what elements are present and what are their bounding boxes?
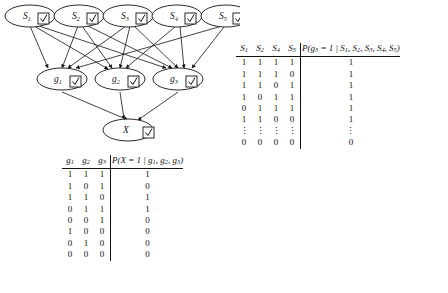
node-g1[interactable]: g1 [37, 68, 87, 90]
cell-bit: 1 [284, 80, 301, 91]
cell-bit: 0 [62, 215, 78, 226]
table-row: 1 0 0 0 [62, 226, 183, 237]
cell-bit: 1 [268, 69, 284, 80]
cell-bit: 0 [268, 137, 284, 148]
cell-bit: 1 [268, 92, 284, 103]
table-row: 1 1 0 0 1 [236, 114, 400, 125]
cpt-table-X-body: 1 1 1 1 1 0 1 0 1 1 0 [62, 169, 183, 261]
cell-bit: ⋮ [284, 126, 301, 137]
bayesian-network-graph: S1 S2 S3 S4 [0, 0, 240, 150]
checkbox-S2[interactable] [87, 13, 98, 24]
cell-probability: 1 [302, 92, 400, 103]
checkbox-S3[interactable] [136, 13, 147, 24]
cell-bit: 0 [62, 249, 78, 260]
cell-probability: 1 [112, 204, 183, 215]
cell-bit: 1 [62, 226, 78, 237]
checkbox-S4[interactable] [185, 13, 196, 24]
cell-probability: 1 [302, 57, 400, 69]
cpt-table-g3-body: 1 1 1 1 1 1 1 1 0 1 1 1 [236, 57, 400, 149]
cell-bit: 1 [252, 80, 268, 91]
cell-bit: 0 [284, 69, 301, 80]
table-row: 0 0 0 0 [62, 249, 183, 260]
checkbox-g3[interactable] [186, 76, 197, 87]
table-row: 0 1 0 0 [62, 238, 183, 249]
cpt-table-g3-grid: S1 S2 S4 S5 P(g3 = 1 | S1, S2, S3, S4, S… [236, 43, 400, 149]
cell-probability: ⋮ [302, 126, 400, 137]
cell-bit: 0 [78, 226, 94, 237]
node-g3[interactable]: g3 [153, 68, 203, 90]
cell-probability: 1 [302, 114, 400, 125]
node-S3[interactable]: S3 [103, 5, 153, 27]
checkbox-X[interactable] [143, 127, 154, 138]
checkbox-S5[interactable] [233, 13, 240, 24]
table-row: 1 1 0 1 1 [236, 80, 400, 91]
table-row: 1 0 1 1 1 [236, 92, 400, 103]
table-header-row: S1 S2 S4 S5 P(g3 = 1 | S1, S2, S3, S4, S… [236, 43, 400, 57]
cell-bit: 0 [236, 103, 252, 114]
cell-bit: 1 [236, 80, 252, 91]
cell-bit: 1 [252, 57, 268, 69]
cell-bit: 0 [62, 204, 78, 215]
table-row-ellipsis: ⋮ ⋮ ⋮ ⋮ ⋮ [236, 126, 400, 137]
node-g2[interactable]: g2 [95, 68, 145, 90]
cell-probability: 0 [112, 249, 183, 260]
table-row: 1 1 1 1 [62, 169, 183, 181]
cell-bit: 0 [94, 249, 111, 260]
cell-bit: ⋮ [268, 126, 284, 137]
node-X[interactable]: X [103, 119, 154, 141]
checkbox-g1[interactable] [70, 76, 81, 87]
col-header-probability: P(g3 = 1 | S1, S2, S3, S4, S5) [302, 43, 400, 57]
cell-bit: 0 [62, 238, 78, 249]
cell-bit: 1 [94, 169, 111, 181]
cell-bit: 1 [62, 181, 78, 192]
table-row: 0 1 1 1 [62, 204, 183, 215]
col-header-probability: P(X = 1 | g1, g2, g3) [112, 155, 183, 169]
cell-bit: 1 [284, 103, 301, 114]
cell-probability: 0 [112, 181, 183, 192]
checkbox-S1[interactable] [38, 13, 49, 24]
cell-probability: 0 [302, 137, 400, 148]
cell-bit: 0 [268, 114, 284, 125]
cell-bit: 1 [284, 57, 301, 69]
cell-bit: ⋮ [252, 126, 268, 137]
table-row: 0 0 1 0 [62, 215, 183, 226]
cell-probability: 0 [112, 215, 183, 226]
cell-bit: 0 [268, 80, 284, 91]
cell-bit: 1 [284, 92, 301, 103]
cell-bit: 1 [236, 57, 252, 69]
node-S2[interactable]: S2 [54, 5, 104, 27]
cell-bit: 1 [94, 204, 111, 215]
cell-probability: 1 [302, 69, 400, 80]
cell-bit: 0 [284, 137, 301, 148]
cell-bit: 1 [236, 69, 252, 80]
cell-bit: 1 [236, 114, 252, 125]
cell-bit: 1 [78, 169, 94, 181]
col-header-S4: S4 [268, 43, 284, 57]
node-S4[interactable]: S4 [152, 5, 202, 27]
figure-canvas: S1 S2 S3 S4 [0, 0, 448, 293]
cell-bit: 0 [78, 181, 94, 192]
node-label: X [122, 125, 130, 135]
cell-probability: 0 [112, 238, 183, 249]
node-S5[interactable]: S5 [201, 5, 240, 27]
cell-bit: 1 [62, 169, 78, 181]
cpt-table-g3: S1 S2 S4 S5 P(g3 = 1 | S1, S2, S3, S4, S… [236, 43, 400, 149]
table-row: 0 0 0 0 0 [236, 137, 400, 148]
cell-probability: 1 [112, 192, 183, 203]
cell-bit: 1 [62, 192, 78, 203]
cell-bit: 1 [252, 103, 268, 114]
cell-bit: 0 [94, 238, 111, 249]
cell-bit: 0 [284, 114, 301, 125]
cell-bit: 0 [78, 249, 94, 260]
cell-probability: 1 [302, 103, 400, 114]
cell-bit: 1 [78, 238, 94, 249]
table-row: 1 1 1 0 1 [236, 69, 400, 80]
col-header-g2: g2 [78, 155, 94, 169]
cell-bit: 1 [94, 181, 111, 192]
node-S1[interactable]: S1 [5, 5, 55, 27]
checkbox-g2[interactable] [128, 76, 139, 87]
cell-bit: 1 [78, 192, 94, 203]
col-header-S2: S2 [252, 43, 268, 57]
cell-bit: 1 [268, 57, 284, 69]
cpt-table-X-grid: g1 g2 g3 P(X = 1 | g1, g2, g3) 1 1 1 1 1 [62, 155, 183, 261]
